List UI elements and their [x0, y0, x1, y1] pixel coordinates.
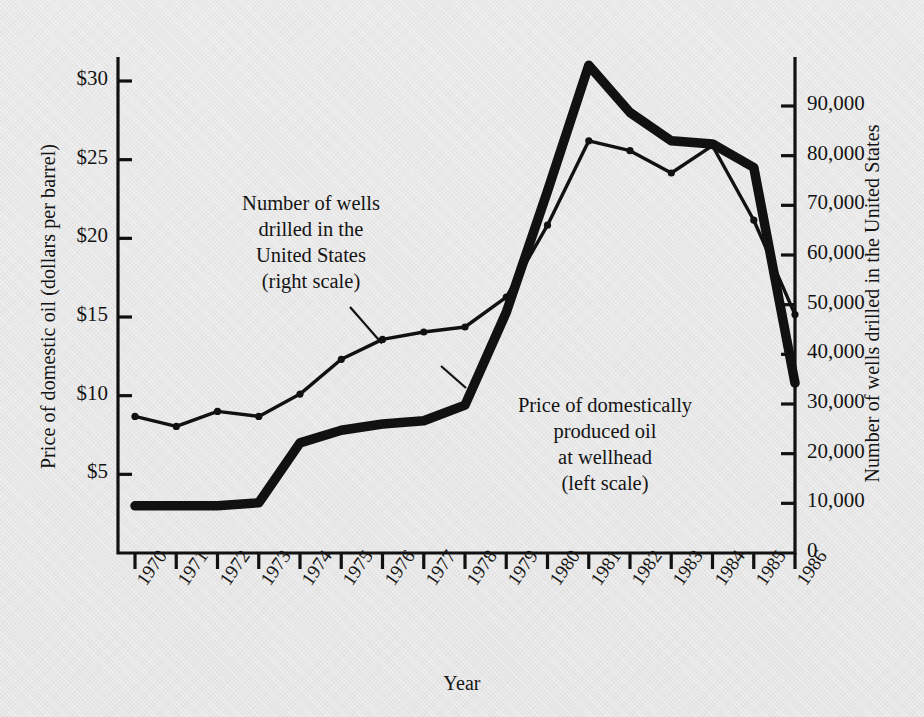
y-left-tick-label: $15 — [20, 302, 108, 327]
y-right-tick-label: 10,000 — [807, 488, 865, 513]
axis-ticks — [118, 81, 795, 569]
y-right-tick-label: 20,000 — [807, 439, 865, 464]
axis-frame — [118, 57, 795, 553]
y-right-tick-label: 90,000 — [807, 91, 865, 116]
series-price-line — [135, 65, 795, 506]
y-right-tick-label: 80,000 — [807, 141, 865, 166]
y-right-tick-label: 40,000 — [807, 339, 865, 364]
y-left-tick-label: $5 — [20, 459, 108, 484]
y-right-tick-label: 30,000 — [807, 389, 865, 414]
y-left-tick-label: $25 — [20, 145, 108, 170]
y-right-tick-label: 50,000 — [807, 290, 865, 315]
chart-plot-area — [0, 0, 924, 717]
chart-figure: Price of domestic oil (dollars per barre… — [0, 0, 924, 717]
y-left-tick-label: $30 — [20, 66, 108, 91]
y-right-tick-label: 70,000 — [807, 190, 865, 215]
y-left-tick-label: $10 — [20, 381, 108, 406]
y-left-tick-label: $20 — [20, 223, 108, 248]
y-right-tick-label: 60,000 — [807, 240, 865, 265]
